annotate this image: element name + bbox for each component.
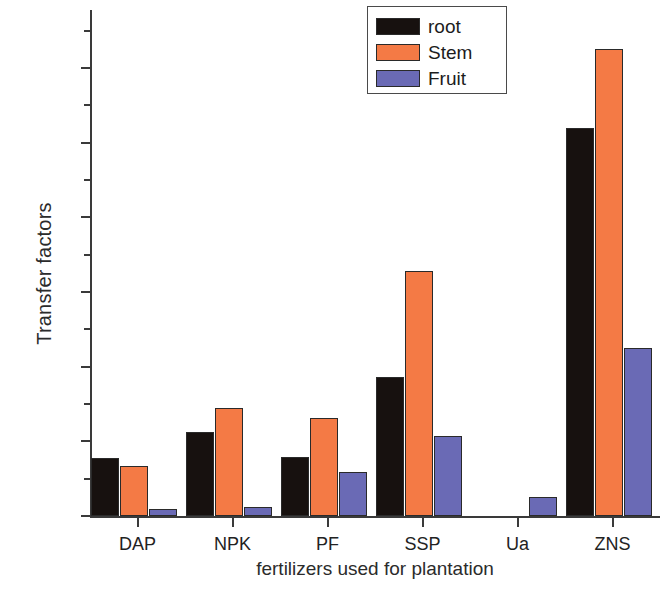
bar-fruit-ua xyxy=(529,497,557,516)
legend-label-fruit: Fruit xyxy=(428,69,466,88)
bar-fruit-npk xyxy=(244,507,272,516)
y-tick-minor xyxy=(84,30,92,32)
bar-fruit-ssp xyxy=(434,436,462,516)
x-tick xyxy=(517,516,519,527)
legend-item-fruit: Fruit xyxy=(376,65,498,91)
x-tick xyxy=(232,516,234,527)
x-axis-title: fertilizers used for plantation xyxy=(90,558,660,580)
y-tick-major xyxy=(81,291,92,293)
bar-root-npk xyxy=(186,432,214,516)
x-tick-label: NPK xyxy=(214,534,251,555)
x-tick-label: ZNS xyxy=(595,534,631,555)
x-tick xyxy=(612,516,614,527)
y-tick-major xyxy=(81,216,92,218)
y-axis-title: Transfer factors xyxy=(33,134,56,414)
bar-root-ssp xyxy=(376,377,404,516)
y-tick-minor xyxy=(84,403,92,405)
legend-item-root: root xyxy=(376,13,498,39)
y-tick-minor xyxy=(84,179,92,181)
bar-stem-pf xyxy=(310,418,338,516)
bar-chart-figure: Transfer factors fertilizers used for pl… xyxy=(0,0,671,591)
x-tick-label: SSP xyxy=(404,534,440,555)
y-tick-minor xyxy=(84,328,92,330)
bar-fruit-dap xyxy=(149,509,177,516)
y-tick-major xyxy=(81,67,92,69)
bar-fruit-zns xyxy=(624,348,652,516)
y-tick-major xyxy=(81,142,92,144)
bar-stem-dap xyxy=(120,466,148,516)
x-tick-label: DAP xyxy=(119,534,156,555)
bar-root-zns xyxy=(566,128,594,516)
y-tick-major xyxy=(81,440,92,442)
x-tick-label: Ua xyxy=(506,534,529,555)
chart-legend: root Stem Fruit xyxy=(367,6,507,94)
bar-stem-zns xyxy=(595,49,623,516)
x-axis-line xyxy=(90,516,660,518)
y-tick-major xyxy=(81,366,92,368)
bar-root-dap xyxy=(91,458,119,516)
legend-item-stem: Stem xyxy=(376,39,498,65)
y-tick-minor xyxy=(84,104,92,106)
x-tick-label: PF xyxy=(316,534,339,555)
legend-swatch-stem xyxy=(376,44,420,61)
x-tick xyxy=(137,516,139,527)
x-tick xyxy=(327,516,329,527)
legend-swatch-fruit xyxy=(376,70,420,87)
bar-fruit-pf xyxy=(339,472,367,516)
bar-stem-npk xyxy=(215,408,243,516)
bar-root-pf xyxy=(281,457,309,516)
legend-label-root: root xyxy=(428,17,461,36)
legend-swatch-root xyxy=(376,18,420,35)
x-tick xyxy=(422,516,424,527)
y-tick-minor xyxy=(84,254,92,256)
bar-stem-ssp xyxy=(405,271,433,516)
legend-label-stem: Stem xyxy=(428,43,472,62)
